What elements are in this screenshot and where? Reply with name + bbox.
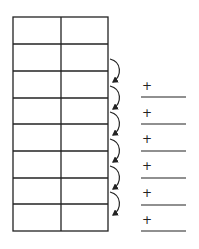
table-grid [13,17,108,231]
plus-sign: + [142,186,152,200]
curved-arrow-icon [110,112,119,135]
diagram-canvas: + + + + + + [0,0,199,249]
curved-arrow-icon [110,59,119,82]
plus-sign: + [142,132,152,146]
plus-sign: + [142,106,152,120]
curved-arrow-icon [110,166,119,189]
addition-blanks: + + + + + + [141,79,186,231]
plus-sign: + [142,159,152,173]
curved-arrow-icon [110,86,119,109]
curved-arrow-icon [110,192,119,215]
plus-sign: + [142,213,152,227]
curved-arrow-icon [110,139,119,162]
plus-sign: + [142,79,152,93]
arrows [110,59,119,215]
